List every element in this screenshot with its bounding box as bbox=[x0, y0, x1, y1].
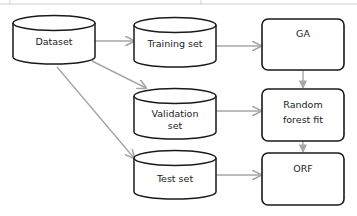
node-rf-label-1: Random bbox=[283, 99, 322, 110]
node-training-set: Training set bbox=[134, 18, 216, 67]
node-rf-label-2: forest fit bbox=[283, 114, 323, 125]
cylinder-top bbox=[134, 89, 216, 104]
node-test-set: Test set bbox=[134, 151, 216, 199]
node-ga-label: GA bbox=[296, 28, 310, 39]
node-dataset: Dataset bbox=[13, 16, 95, 65]
node-orf-label: ORF bbox=[293, 163, 313, 174]
table-border-fragment bbox=[0, 0, 357, 4]
cylinder-top bbox=[134, 151, 216, 166]
node-test-label: Test set bbox=[156, 173, 194, 184]
node-ga: GA bbox=[262, 19, 344, 70]
node-training-label: Training set bbox=[146, 38, 202, 49]
node-random-forest-fit: Random forest fit bbox=[262, 89, 344, 141]
edge-dataset-validation bbox=[92, 61, 146, 88]
edge-dataset-test bbox=[57, 67, 134, 158]
box-shape bbox=[262, 153, 344, 205]
cylinder-top bbox=[134, 18, 216, 33]
flow-diagram: Dataset Training set Validation set Test… bbox=[0, 0, 357, 216]
node-validation-set: Validation set bbox=[134, 89, 216, 139]
cylinder-top bbox=[13, 16, 95, 31]
node-dataset-label: Dataset bbox=[35, 36, 72, 47]
node-validation-label-1: Validation bbox=[152, 108, 199, 119]
node-validation-label-2: set bbox=[168, 120, 183, 131]
box-shape bbox=[262, 19, 344, 70]
node-orf: ORF bbox=[262, 153, 344, 205]
